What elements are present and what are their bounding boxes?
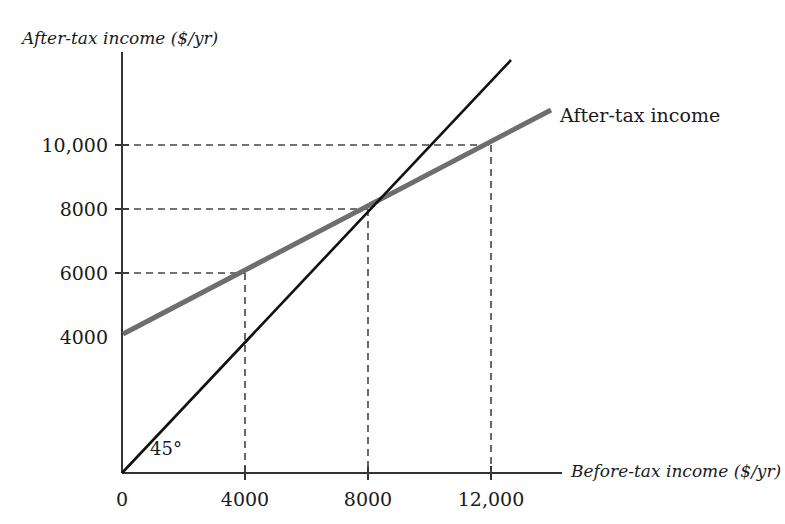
x-tick-label-4000: 4000 (205, 488, 285, 510)
y-axis-title: After-tax income ($/yr) (22, 28, 218, 48)
y-tick-label-10000: 10,000 (0, 134, 108, 156)
x-tick-label-12000: 12,000 (446, 488, 536, 510)
y-tick-label-4000: 4000 (0, 326, 108, 348)
chart-canvas (0, 0, 785, 524)
x-axis-title: Before-tax income ($/yr) (571, 461, 781, 481)
y-tick-label-8000: 8000 (0, 198, 108, 220)
y-tick-label-6000: 6000 (0, 262, 108, 284)
x-tick-label-8000: 8000 (328, 488, 408, 510)
forty-five-degree-line (122, 60, 511, 473)
chart-figure: After-tax income ($/yr) Before-tax incom… (0, 0, 785, 524)
angle-label: 45° (150, 438, 182, 459)
after-tax-income-line (123, 110, 551, 334)
after-tax-income-label: After-tax income (560, 104, 720, 126)
x-tick-label-0: 0 (92, 488, 152, 510)
